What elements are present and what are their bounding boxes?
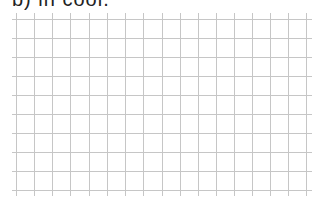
grid-vertical-line: [143, 13, 144, 196]
grid-vertical-line: [216, 13, 217, 196]
grid-vertical-line: [70, 13, 71, 196]
grid-vertical-line: [198, 13, 199, 196]
grid-vertical-line: [288, 13, 289, 196]
grid-vertical-line: [89, 13, 90, 196]
grid-vertical-line: [107, 13, 108, 196]
grid-vertical-line: [34, 13, 35, 196]
grid-vertical-line: [52, 13, 53, 196]
grid-vertical-line: [162, 13, 163, 196]
grid-vertical-line: [270, 13, 271, 196]
grid-vertical-line: [306, 13, 307, 196]
grid-vertical-line: [180, 13, 181, 196]
grid-vertical-line: [16, 13, 17, 196]
grid-vertical-line: [234, 13, 235, 196]
graph-paper-grid: [0, 0, 317, 205]
grid-vertical-line: [125, 13, 126, 196]
grid-vertical-line: [252, 13, 253, 196]
